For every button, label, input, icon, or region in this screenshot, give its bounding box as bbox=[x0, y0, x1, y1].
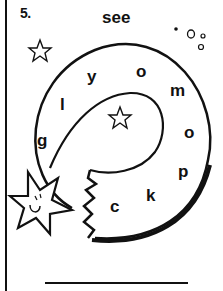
sparkle-dot bbox=[174, 27, 178, 31]
maze-letter[interactable]: g bbox=[37, 132, 47, 149]
center-star-icon bbox=[109, 107, 131, 128]
maze-letter[interactable]: o bbox=[184, 124, 194, 141]
torn-edge bbox=[84, 170, 96, 238]
maze-letter[interactable]: c bbox=[110, 198, 119, 215]
sparkle-ring bbox=[188, 30, 195, 38]
sparkle-ring bbox=[199, 45, 204, 50]
maze-letter[interactable]: l bbox=[60, 96, 65, 113]
maze-letter[interactable]: p bbox=[178, 163, 188, 180]
maze-letter[interactable]: o bbox=[136, 63, 146, 80]
maze-letter[interactable]: m bbox=[170, 82, 185, 99]
comet-tail-inner-outline bbox=[50, 93, 163, 173]
answer-line[interactable] bbox=[45, 282, 188, 284]
maze-letter[interactable]: k bbox=[146, 187, 155, 204]
outline-star-icon bbox=[29, 40, 51, 61]
maze-letter[interactable]: y bbox=[87, 68, 96, 85]
sparkle-ring bbox=[201, 34, 205, 38]
shooting-star-drawing bbox=[0, 0, 223, 291]
